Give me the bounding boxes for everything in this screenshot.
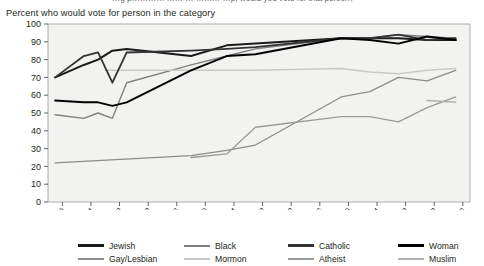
legend-item-mormon[interactable]: Mormon: [184, 254, 288, 264]
legend-swatch: [398, 244, 424, 247]
x-axis-tick-label: 1972: [134, 206, 153, 210]
x-axis-tick-label: 1988: [248, 206, 267, 210]
legend-item-black[interactable]: Black: [184, 241, 288, 251]
y-axis-tick-label: 30: [31, 144, 41, 154]
y-axis-tick-label: 20: [31, 162, 41, 172]
legend-item-jewish[interactable]: Jewish: [78, 241, 184, 251]
y-axis-tick-label: 90: [31, 37, 41, 47]
y-axis-tick-label: 50: [31, 108, 41, 118]
x-axis-tick-label: 2004: [362, 206, 381, 210]
y-axis-tick-label: 60: [31, 90, 41, 100]
y-axis-tick-label: 70: [31, 73, 41, 83]
y-axis-tick-label: 100: [26, 19, 41, 29]
chart-subtitle: Percent who would vote for person in the…: [6, 8, 215, 18]
y-axis-tick-label: 0: [36, 197, 41, 207]
legend-item-woman[interactable]: Woman: [398, 241, 478, 251]
x-axis-tick-label: 1976: [162, 206, 181, 210]
legend-swatch: [78, 244, 104, 247]
x-axis-tick-label: 1968: [105, 206, 124, 210]
y-axis-tick-label: 40: [31, 126, 41, 136]
y-axis-tick-label: 10: [31, 179, 41, 189]
x-axis-tick-label: 2016: [448, 206, 467, 210]
legend-label: Jewish: [109, 241, 135, 251]
x-axis-tick-label: 2008: [391, 206, 410, 210]
x-axis-tick-label: 2000: [334, 206, 353, 210]
legend-label: Mormon: [215, 254, 247, 264]
x-axis-tick-label: 1984: [219, 206, 238, 210]
chart-legend: JewishBlackCatholicWomanGay/LesbianMormo…: [0, 239, 484, 266]
legend-label: Muslim: [429, 254, 456, 264]
legend-swatch: [78, 258, 104, 260]
legend-item-atheist[interactable]: Atheist: [288, 254, 398, 264]
legend-item-gay-lesbian[interactable]: Gay/Lesbian: [78, 254, 184, 264]
y-axis-tick-label: 80: [31, 55, 41, 65]
legend-swatch: [288, 258, 314, 260]
legend-label: Atheist: [319, 254, 345, 264]
legend-label: Gay/Lesbian: [109, 254, 157, 264]
cut-off-question-text: …g p………… …… … ……… …p, would you vote for…: [112, 0, 484, 5]
legend-label: Black: [215, 241, 236, 251]
legend-item-catholic[interactable]: Catholic: [288, 241, 398, 251]
x-axis-tick-label: 1996: [305, 206, 324, 210]
plot-area: 0102030405060708090100196019641968197219…: [0, 18, 484, 210]
chart-page: …g p………… …… … ……… …p, would you vote for…: [0, 0, 484, 266]
legend-label: Catholic: [319, 241, 350, 251]
legend-item-muslim[interactable]: Muslim: [398, 254, 478, 264]
legend-swatch: [184, 245, 210, 247]
legend-swatch: [398, 258, 424, 260]
x-axis-tick-label: 1980: [191, 206, 210, 210]
legend-swatch: [184, 258, 210, 260]
x-axis-tick-label: 1992: [277, 206, 296, 210]
line-chart: 0102030405060708090100196019641968197219…: [0, 18, 484, 210]
x-axis-tick-label: 1964: [76, 206, 95, 210]
legend-swatch: [288, 244, 314, 247]
x-axis-tick-label: 2012: [420, 206, 439, 210]
legend-label: Woman: [429, 241, 458, 251]
x-axis-tick-label: 1960: [48, 206, 67, 210]
